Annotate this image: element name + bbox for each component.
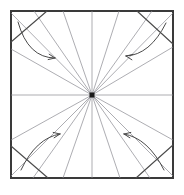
diagram-canvas [0, 0, 184, 195]
origami-crease-diagram [0, 0, 184, 195]
center-dot [90, 93, 95, 98]
